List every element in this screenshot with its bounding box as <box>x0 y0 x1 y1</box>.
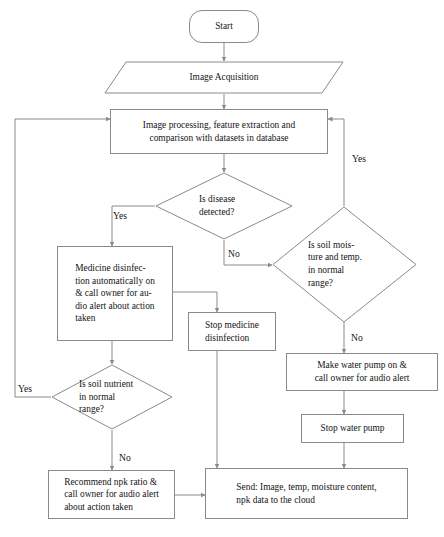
edge-moisture-yes-to-processing <box>328 119 344 206</box>
node-soil-moisture-decision: Is soil mois- ture and temp. in normal r… <box>272 206 417 323</box>
node-soil-nutrient-decision: Is soil nutrient in normal range? <box>51 364 173 430</box>
flowchart-canvas: Start Image Acquisition Image processing… <box>0 0 444 537</box>
node-start: Start <box>189 10 259 43</box>
node-medicine-disinfection-label: Medicine disinfec- tion automatically on… <box>69 262 161 325</box>
node-water-pump-on: Make water pump on & call owner for audi… <box>286 353 438 391</box>
node-start-label: Start <box>215 20 233 33</box>
node-send-cloud-label: Send: Image, temp, moisture content, npk… <box>230 481 382 506</box>
node-image-acquisition-label: Image Acquisition <box>190 71 259 84</box>
edge-label-disease-yes: Yes <box>113 210 127 221</box>
edge-label-moisture-no: No <box>351 332 363 343</box>
node-water-pump-on-label: Make water pump on & call owner for audi… <box>309 359 416 384</box>
node-image-processing: Image processing, feature extraction and… <box>110 109 328 154</box>
node-medicine-disinfection: Medicine disinfec- tion automatically on… <box>57 246 173 341</box>
node-stop-medicine-label: Stop medicine disinfection <box>199 319 265 344</box>
node-soil-nutrient-decision-label: Is soil nutrient in normal range? <box>79 378 133 416</box>
edge-label-moisture-yes: Yes <box>352 153 366 164</box>
node-image-acquisition: Image Acquisition <box>104 61 344 94</box>
edge-label-nutrient-no: No <box>119 452 131 463</box>
node-recommend-npk: Recommend npk ratio & call owner for aud… <box>48 470 175 519</box>
edge-label-nutrient-yes: Yes <box>18 383 32 394</box>
node-stop-water-pump-label: Stop water pump <box>314 422 390 435</box>
node-stop-water-pump: Stop water pump <box>301 414 404 443</box>
node-image-processing-label: Image processing, feature extraction and… <box>137 119 301 144</box>
node-soil-moisture-decision-label: Is soil mois- ture and temp. in normal r… <box>308 239 362 289</box>
node-stop-medicine: Stop medicine disinfection <box>188 312 276 351</box>
edge-medicine-to-stop-medicine <box>173 292 217 312</box>
node-send-cloud: Send: Image, temp, moisture content, npk… <box>205 468 408 519</box>
edge-label-disease-no: No <box>228 248 240 259</box>
node-disease-decision-label: Is disease detected? <box>199 193 235 218</box>
node-recommend-npk-label: Recommend npk ratio & call owner for aud… <box>58 476 165 514</box>
